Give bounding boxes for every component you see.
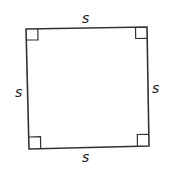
right-angle-marker-top-left [26, 29, 38, 40]
square-outline [26, 27, 149, 149]
right-angle-marker-bottom-right [137, 134, 149, 146]
label-right: s [152, 80, 159, 96]
label-left: s [15, 84, 22, 100]
square-diagram: s s s s [0, 0, 175, 173]
right-angle-marker-top-right [136, 27, 148, 38]
label-bottom: s [82, 149, 89, 165]
label-top: s [82, 10, 89, 26]
right-angle-marker-bottom-left [29, 137, 41, 149]
